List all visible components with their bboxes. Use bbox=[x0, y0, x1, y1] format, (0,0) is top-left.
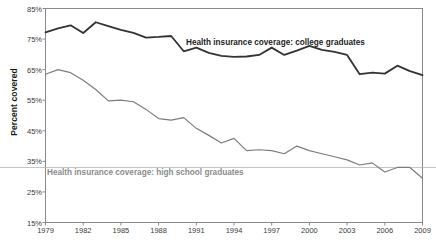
x-axis-tick-label: 1994 bbox=[226, 226, 243, 235]
x-axis-tick-label: 1985 bbox=[113, 226, 130, 235]
x-axis-tick-labels: 1979198219851988199119941997200020032006… bbox=[0, 226, 436, 240]
x-axis-tick-label: 2006 bbox=[376, 226, 393, 235]
x-axis-tick-label: 2003 bbox=[339, 226, 356, 235]
x-axis-tick-label: 1997 bbox=[263, 226, 280, 235]
x-axis-tick-label: 1979 bbox=[37, 226, 54, 235]
x-axis-tick-label: 2000 bbox=[301, 226, 318, 235]
x-axis-tick-label: 1982 bbox=[75, 226, 92, 235]
series-label-college-graduates: Health insurance coverage: college gradu… bbox=[186, 38, 365, 47]
line-chart: Percent covered 85%75%65%55%45%35%25%15%… bbox=[0, 0, 436, 246]
series-label-high-school-graduates: Health insurance coverage: high school g… bbox=[47, 168, 244, 177]
x-axis-tick-label: 1991 bbox=[188, 226, 205, 235]
x-axis-tick-label: 2009 bbox=[414, 226, 431, 235]
plot-area bbox=[0, 0, 436, 246]
x-axis-tick-label: 1988 bbox=[150, 226, 167, 235]
